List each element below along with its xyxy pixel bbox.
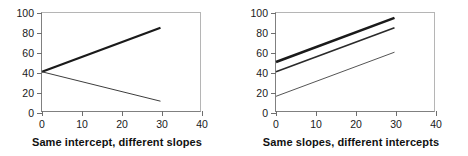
panel-caption-right: Same slopes, different intercepts [234, 136, 468, 148]
plot-area-left: 0 20 40 60 80 100 0 10 20 30 40 [41, 12, 201, 112]
x-tick-label-0: 0 [39, 119, 45, 130]
y-tick-label-60: 60 [256, 48, 268, 59]
x-tick-10 [316, 111, 317, 116]
x-tick-10 [82, 111, 83, 116]
figure-two-panel-line-charts: 0 20 40 60 80 100 0 10 20 30 40 Same int… [0, 0, 468, 156]
y-tick-label-100: 100 [16, 8, 34, 19]
panel-caption-left: Same intercept, different slopes [0, 136, 234, 148]
x-tick-label-10: 10 [310, 119, 322, 130]
series-line-negative-slope [42, 72, 161, 101]
x-tick-0 [276, 111, 277, 116]
x-tick-40 [436, 111, 437, 116]
x-tick-0 [42, 111, 43, 116]
y-tick-label-80: 80 [256, 28, 268, 39]
y-tick-label-100: 100 [250, 8, 268, 19]
y-tick-label-40: 40 [256, 68, 268, 79]
x-tick-30 [396, 111, 397, 116]
y-tick-label-20: 20 [256, 88, 268, 99]
panel-right: 0 20 40 60 80 100 0 10 20 30 40 Same slo… [234, 0, 468, 156]
series-line-positive-slope [42, 28, 161, 72]
series-line-intercept-15 [276, 52, 395, 96]
series-line-intercept-40 [276, 28, 395, 72]
x-tick-label-40: 40 [196, 119, 208, 130]
x-tick-20 [122, 111, 123, 116]
x-tick-label-20: 20 [116, 119, 128, 130]
y-tick-label-60: 60 [22, 48, 34, 59]
series-line-intercept-50 [276, 18, 395, 62]
x-tick-20 [356, 111, 357, 116]
x-tick-label-30: 30 [156, 119, 168, 130]
x-tick-40 [202, 111, 203, 116]
y-tick-label-20: 20 [22, 88, 34, 99]
y-tick-label-80: 80 [22, 28, 34, 39]
y-tick-label-0: 0 [28, 108, 34, 119]
series-plot-right [276, 13, 434, 111]
series-plot-left [42, 13, 200, 111]
x-tick-30 [162, 111, 163, 116]
x-tick-label-10: 10 [76, 119, 88, 130]
x-tick-label-40: 40 [430, 119, 442, 130]
x-tick-label-20: 20 [350, 119, 362, 130]
y-tick-label-40: 40 [22, 68, 34, 79]
x-tick-label-0: 0 [273, 119, 279, 130]
plot-area-right: 0 20 40 60 80 100 0 10 20 30 40 [275, 12, 435, 112]
x-tick-label-30: 30 [390, 119, 402, 130]
y-tick-label-0: 0 [262, 108, 268, 119]
panel-left: 0 20 40 60 80 100 0 10 20 30 40 Same int… [0, 0, 234, 156]
